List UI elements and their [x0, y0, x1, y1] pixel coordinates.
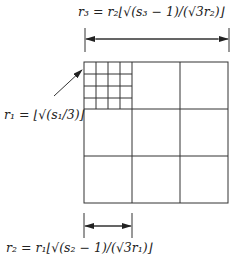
r1-pointer-arrow — [54, 70, 82, 96]
r3-formula-label: r₃ = r₂⌊√(s₃ − 1)/(√3r₂)⌋ — [78, 6, 225, 19]
grid-diagram — [0, 0, 236, 264]
r3-dimension-arrow — [85, 28, 229, 52]
outer-grid — [84, 62, 228, 203]
inner-fine-grid — [84, 62, 132, 109]
r2-formula-label: r₂ = r₁⌊√(s₂ − 1)/(√3r₁)⌋ — [6, 242, 153, 255]
r1-formula-label: r₁ = ⌊√(s₁/3)⌋ — [4, 109, 84, 122]
r2-dimension-arrow — [84, 213, 132, 238]
diagram-canvas: r₃ = r₂⌊√(s₃ − 1)/(√3r₂)⌋ r₁ = ⌊√(s₁/3)⌋… — [0, 0, 236, 264]
